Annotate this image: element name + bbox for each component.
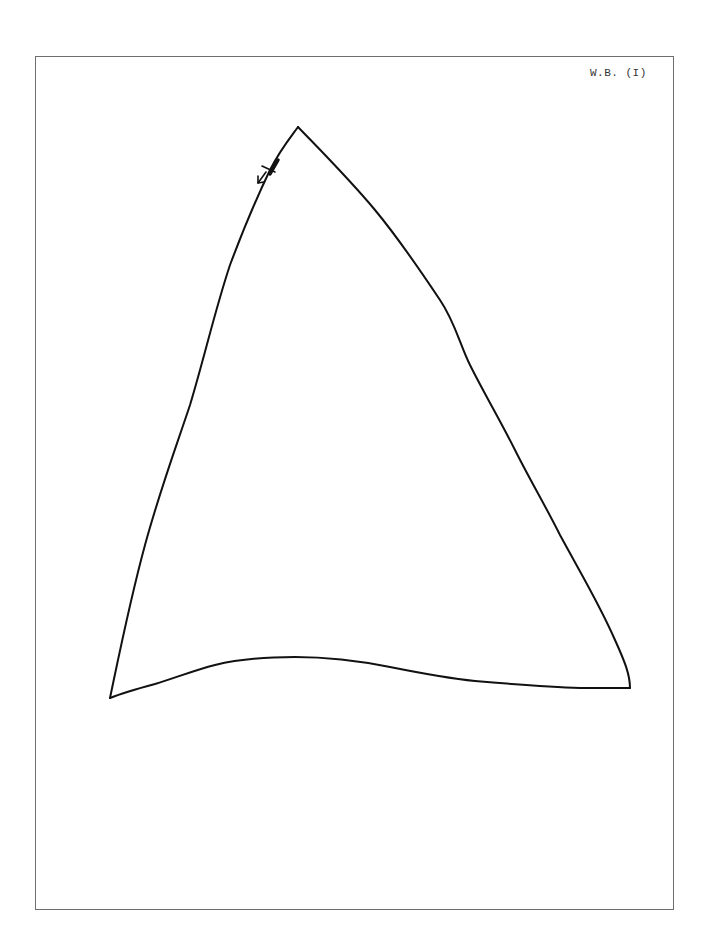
sail-foot-edge [110, 657, 630, 698]
sail-drawing [0, 0, 710, 949]
sail-luff-edge [110, 127, 298, 698]
sail-leech-edge [298, 127, 630, 688]
